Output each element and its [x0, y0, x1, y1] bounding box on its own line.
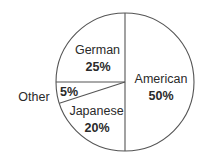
- pie-chart: German 25% American 50% Other 5% Japanes…: [0, 0, 208, 159]
- slice-value-american: 50%: [148, 89, 173, 103]
- slice-value-other: 5%: [60, 85, 78, 99]
- slice-value-german: 25%: [85, 60, 110, 74]
- pie-chart-svg: German 25% American 50% Other 5% Japanes…: [0, 0, 208, 159]
- slice-value-japanese: 20%: [84, 121, 109, 135]
- slice-label-german: German: [75, 43, 120, 57]
- slice-label-other: Other: [18, 90, 49, 104]
- slice-label-japanese: Japanese: [69, 104, 123, 118]
- slice-label-american: American: [135, 72, 188, 86]
